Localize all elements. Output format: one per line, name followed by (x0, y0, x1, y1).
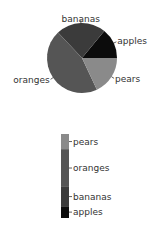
pie-label-oranges: oranges (13, 75, 50, 85)
bar-label-oranges: oranges (73, 163, 110, 173)
pie-label-pears: pears (115, 74, 140, 84)
bar-segment-apples (61, 206, 69, 218)
stacked-bar-legend: applesbananasorangespears (61, 134, 112, 218)
pie-label-tick-pears (112, 77, 115, 79)
pie-label-apples: apples (117, 36, 147, 46)
bar-segment-oranges (61, 149, 69, 187)
bar-label-apples: apples (73, 207, 103, 217)
bar-label-pears: pears (73, 137, 98, 147)
pie-label-tick-apples (114, 42, 117, 43)
bar-segment-pears (61, 134, 69, 149)
pie-label-bananas: bananas (62, 14, 101, 24)
pie-label-tick-oranges (51, 78, 53, 80)
bar-segment-bananas (61, 187, 69, 206)
chart-canvas: applesbananasorangespears applesbananaso… (0, 0, 164, 250)
bar-label-bananas: bananas (73, 192, 112, 202)
pie-chart: applesbananasorangespears (13, 14, 147, 93)
